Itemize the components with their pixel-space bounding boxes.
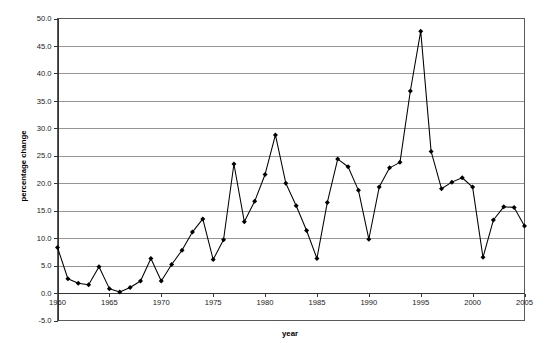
data-point-1962 [76, 281, 81, 286]
data-point-1960 [55, 245, 60, 250]
data-point-1984 [304, 228, 309, 233]
data-point-1978 [242, 219, 247, 224]
data-point-1975 [211, 257, 216, 262]
x-tick-label-1995: 1995 [412, 298, 429, 307]
y-tick-label-10: 10.0 [37, 234, 52, 243]
x-axis-title: year [282, 329, 298, 338]
y-tick-label-50: 50.0 [37, 14, 52, 23]
data-point-1989 [356, 188, 361, 193]
y-tick-label-15: 15.0 [37, 206, 52, 215]
data-series-group [58, 31, 525, 292]
y-axis-tick-labels: -5.00.05.010.015.020.025.030.035.040.045… [37, 14, 52, 325]
y-tick-label-40: 40.0 [37, 69, 52, 78]
x-tick-label-2000: 2000 [464, 298, 481, 307]
data-point-1963 [86, 282, 91, 287]
data-point-1982 [283, 181, 288, 186]
data-point-1996 [429, 149, 434, 154]
data-point-2001 [480, 255, 485, 260]
y-tick-label-25: 25.0 [37, 151, 52, 160]
data-point-1997 [439, 186, 444, 191]
x-tick-label-2005: 2005 [516, 298, 533, 307]
plot-border-rect [58, 19, 525, 321]
x-tick-label-1970: 1970 [153, 298, 170, 307]
data-point-1995 [418, 29, 423, 34]
line-chart: -5.00.05.010.015.020.025.030.035.040.045… [0, 0, 551, 343]
data-point-1983 [294, 203, 299, 208]
data-point-2004 [512, 205, 517, 210]
y-axis-title: percentage change [19, 130, 28, 202]
data-point-1979 [252, 199, 257, 204]
data-point-1964 [97, 264, 102, 269]
series-polyline [58, 31, 525, 292]
data-point-1993 [397, 160, 402, 165]
data-point-2005 [522, 224, 527, 229]
x-tick-label-1980: 1980 [257, 298, 274, 307]
data-point-1967 [128, 285, 133, 290]
y-tick-label-45: 45.0 [37, 42, 52, 51]
gridlines-group [58, 47, 525, 294]
x-tick-label-1965: 1965 [101, 298, 118, 307]
chart-container: -5.00.05.010.015.020.025.030.035.040.045… [0, 0, 551, 343]
plot-area-border [58, 19, 525, 321]
data-point-1985 [314, 256, 319, 261]
data-point-1990 [366, 237, 371, 242]
y-tick-label-20: 20.0 [37, 179, 52, 188]
data-point-1968 [138, 278, 143, 283]
x-tick-label-1960: 1960 [49, 298, 66, 307]
y-tick-label-30: 30.0 [37, 124, 52, 133]
data-point-1961 [65, 276, 70, 281]
data-point-1977 [231, 162, 236, 167]
data-point-1980 [263, 172, 268, 177]
data-point-1965 [107, 286, 112, 291]
y-tick-label-35: 35.0 [37, 97, 52, 106]
data-point-1981 [273, 132, 278, 137]
data-point-1976 [221, 237, 226, 242]
x-axis-tick-labels: 1960196519701975198019851990199520002005 [49, 298, 533, 307]
x-tick-label-1975: 1975 [205, 298, 222, 307]
data-point-1992 [387, 165, 392, 170]
data-point-1986 [325, 200, 330, 205]
y-tick-label--5: -5.0 [38, 316, 51, 325]
data-point-1969 [148, 256, 153, 261]
tickmarks-group [54, 20, 526, 322]
x-tick-label-1990: 1990 [360, 298, 377, 307]
x-tick-label-1985: 1985 [308, 298, 325, 307]
data-point-1994 [408, 88, 413, 93]
y-tick-label-5: 5.0 [41, 261, 52, 270]
data-point-1991 [377, 185, 382, 190]
data-point-1970 [159, 278, 164, 283]
data-markers-group [55, 29, 527, 295]
y-tick-label-0: 0.0 [41, 289, 52, 298]
